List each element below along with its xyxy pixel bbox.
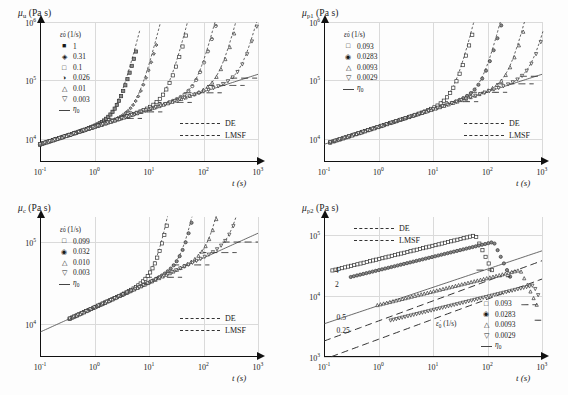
legend-rate-header: ε̇0 (1/s) <box>436 319 456 332</box>
x-tick-label: 101 <box>428 166 439 177</box>
legend-value: 0.0093 <box>492 320 515 331</box>
figure-caption <box>6 381 562 393</box>
legend-value: 0.01 <box>70 84 86 95</box>
legend-rate-header: ε̇0 (1/s) <box>342 30 377 41</box>
x-tick-label: 103 <box>253 166 264 177</box>
legend-marker-icon: ◈ <box>58 54 70 61</box>
legend-marker-icon: △ <box>58 86 70 93</box>
legend-item-0.0283: ◉0.0283 <box>480 310 515 321</box>
legend-models-u: DELMSF <box>180 118 246 142</box>
data-series-0.31 <box>38 43 158 146</box>
x-tick-label: 102 <box>482 166 493 177</box>
legend-model-de: DE <box>180 313 246 325</box>
legend-item-0.1: □0.1 <box>58 63 90 74</box>
legend-value: 0.0283 <box>354 52 377 63</box>
x-axis-arrow-icon <box>257 352 265 360</box>
de-dash-icon <box>354 228 394 230</box>
legend-model-label: LMSF <box>225 325 246 337</box>
legend-model-label: DE <box>509 118 520 130</box>
lmsf-model-curve <box>149 22 188 108</box>
y-tick-label: 105 <box>298 230 320 241</box>
legend-symbols-p1: ε̇0 (1/s)□0.093◉0.0283△0.0093▽0.0029η0 <box>342 30 377 95</box>
x-tick-label: 102 <box>198 361 209 372</box>
legend-value: 0.093 <box>354 42 374 53</box>
x-tick-label: 100 <box>373 166 384 177</box>
legend-marker-icon: ▽ <box>342 75 354 82</box>
data-series-0.010 <box>68 217 218 320</box>
x-tick-label: 10-1 <box>34 361 47 372</box>
legend-value-eta0: η0 <box>70 104 79 117</box>
lmsf-model-curve <box>224 22 256 83</box>
y-tick-label: 106 <box>14 17 36 28</box>
gridline-vertical <box>258 217 259 357</box>
legend-model-de: DE <box>464 118 530 130</box>
legend-value: 0.0283 <box>492 310 515 321</box>
x-tick-label: 10-1 <box>318 361 331 372</box>
legend-model-de: DE <box>354 223 420 235</box>
annotation-2: 2 <box>335 280 339 289</box>
legend-value-eta0: η0 <box>492 340 501 353</box>
legend-item-eta0: η0 <box>58 279 90 290</box>
legend-item-0.31: ◈0.31 <box>58 52 90 63</box>
gridline-vertical <box>542 217 543 357</box>
legend-item-1: ■1 <box>58 42 90 53</box>
x-tick-label: 102 <box>482 361 493 372</box>
legend-symbols-c: ε̇0 (1/s)□0.099◉0.032△0.010▽0.003η0 <box>58 225 90 290</box>
legend-marker-icon: □ <box>58 65 70 72</box>
legend-marker-icon: □ <box>480 301 492 308</box>
y-tick-label: 105 <box>14 236 36 247</box>
legend-line-icon <box>480 343 492 350</box>
lmsf-dash-icon <box>464 135 504 137</box>
legend-item-0.093: □0.093 <box>342 42 377 53</box>
x-tick-label: 10-1 <box>318 166 331 177</box>
legend-marker-icon: □ <box>58 238 70 245</box>
y-tick-label: 104 <box>298 133 320 144</box>
legend-value: 0.099 <box>70 237 90 248</box>
y-tick-label: 105 <box>298 75 320 86</box>
legend-marker-icon: ◉ <box>480 311 492 318</box>
legend-line-icon <box>58 107 70 114</box>
legend-value: 0.026 <box>70 73 90 84</box>
legend-item-0.0093: ε̇0 (1/s)△0.0093 <box>480 320 515 331</box>
x-tick-label: 101 <box>144 166 155 177</box>
de-dash-icon <box>180 123 220 125</box>
legend-marker-icon: ▽ <box>58 96 70 103</box>
legend-marker-icon: △ <box>480 322 492 329</box>
legend-item-0.026: ◑0.026 <box>58 73 90 84</box>
lmsf-model-curve <box>202 22 237 91</box>
legend-model-lmsf: LMSF <box>354 235 420 247</box>
x-axis-label-u: t (s) <box>232 178 246 188</box>
legend-line-icon <box>58 281 70 288</box>
x-axis-arrow-icon <box>257 157 265 165</box>
lmsf-model-curve <box>491 22 525 89</box>
x-tick-label: 100 <box>373 361 384 372</box>
legend-value-eta0: η0 <box>70 278 79 291</box>
legend-models-p2: DELMSF <box>354 223 420 247</box>
annotation-0.5: 0.5 <box>337 313 347 322</box>
de-dash-icon <box>180 318 220 320</box>
legend-item-0.0093: △0.0093 <box>342 63 377 74</box>
legend-item-0.010: △0.010 <box>58 258 90 269</box>
x-tick-label: 103 <box>537 166 548 177</box>
legend-models-c: DELMSF <box>180 313 246 337</box>
y-axis-label-c: μc (Pa s) <box>18 203 51 214</box>
legend-item-eta0: η0 <box>58 105 90 116</box>
legend-model-label: DE <box>225 313 236 325</box>
legend-model-label: DE <box>399 223 410 235</box>
legend-item-eta0: η0 <box>480 341 515 352</box>
legend-model-label: LMSF <box>399 235 420 247</box>
legend-marker-icon: △ <box>342 65 354 72</box>
x-axis-arrow-icon <box>541 352 549 360</box>
legend-value: 1 <box>70 42 77 53</box>
legend-value: 0.31 <box>70 52 86 63</box>
legend-model-de: DE <box>180 118 246 130</box>
legend-item-0.0283: ◉0.0283 <box>342 52 377 63</box>
x-tick-label: 102 <box>198 166 209 177</box>
legend-marker-icon: ◉ <box>58 249 70 256</box>
legend-marker-icon: □ <box>342 43 354 50</box>
annotation-4: 4 <box>335 266 339 275</box>
legend-value: 0.1 <box>70 63 82 74</box>
y-tick-label: 104 <box>298 291 320 302</box>
legend-models-p1: DELMSF <box>464 118 530 142</box>
x-tick-label: 101 <box>144 361 155 372</box>
